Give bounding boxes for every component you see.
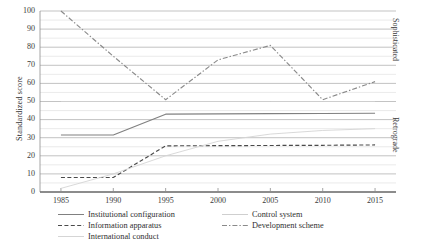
x-tick-label: 2015 [355,196,395,205]
y-tick-label: 70 [7,61,35,69]
y-tick-label: 60 [7,79,35,87]
x-tick-label: 1995 [146,196,186,205]
y-tick-label: 100 [7,7,35,15]
y-tick-label: 20 [7,152,35,160]
legend-item-label: Institutional configuration [88,210,175,219]
legend-item-label: Control system [252,210,302,219]
x-tick-label: 2000 [198,196,238,205]
chart-legend: Institutional configurationInformation a… [58,210,388,248]
chart-figure: Standardized score Sophisticated Retrogr… [0,0,426,252]
y-tick-label: 10 [7,170,35,178]
legend-swatch-line-icon [58,222,84,229]
y-tick-label: 40 [7,115,35,123]
x-tick-label: 2005 [250,196,290,205]
series-line-1 [61,145,375,178]
x-tick-label: 1990 [93,196,133,205]
y-tick-label: 0 [7,188,35,196]
y-tick-label: 30 [7,134,35,142]
legend-item[interactable]: International conduct [58,232,159,241]
legend-item[interactable]: Information apparatus [58,221,162,230]
legend-swatch-line-icon [222,222,248,229]
legend-item-label: International conduct [88,232,159,241]
series-line-0 [61,113,375,135]
legend-swatch-line-icon [58,211,84,218]
y-tick-label: 50 [7,97,35,105]
x-tick-label: 1985 [41,196,81,205]
y-tick-label: 80 [7,43,35,51]
legend-item[interactable]: Institutional configuration [58,210,175,219]
legend-swatch-line-icon [222,211,248,218]
legend-item-label: Development scheme [252,221,324,230]
x-tick-label: 2010 [303,196,343,205]
series-line-4 [61,11,375,100]
legend-swatch-line-icon [58,233,84,240]
legend-item-label: Information apparatus [88,221,162,230]
y-tick-label: 90 [7,25,35,33]
legend-item[interactable]: Development scheme [222,221,324,230]
legend-item[interactable]: Control system [222,210,302,219]
